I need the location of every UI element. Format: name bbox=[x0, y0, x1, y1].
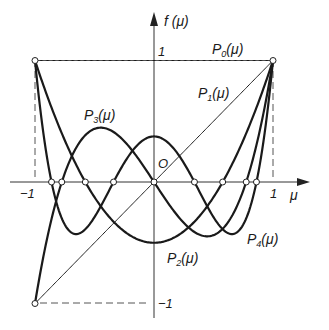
origin-label: O bbox=[158, 156, 168, 171]
plot-canvas: f (μ) μ O −1 1 1 −1 P0(μ) P1(μ) P3(μ) P2… bbox=[0, 0, 329, 330]
x-axis-arrow-icon bbox=[297, 178, 310, 186]
label-p3: P3(μ) bbox=[84, 107, 115, 125]
zero-marker bbox=[253, 179, 259, 185]
zero-marker bbox=[82, 179, 88, 185]
label-p4: P4(μ) bbox=[247, 231, 278, 249]
x-axis-label: μ bbox=[289, 187, 298, 203]
zero-marker bbox=[151, 179, 157, 185]
y-tick-pos-one: 1 bbox=[158, 44, 165, 59]
y-axis-label: f (μ) bbox=[164, 13, 189, 29]
endpoint-marker bbox=[32, 301, 38, 307]
endpoint-marker bbox=[270, 58, 276, 64]
y-tick-neg-one: −1 bbox=[158, 296, 173, 311]
legendre-diagram: f (μ) μ O −1 1 1 −1 P0(μ) P1(μ) P3(μ) P2… bbox=[0, 0, 329, 330]
label-p1: P1(μ) bbox=[198, 85, 229, 103]
x-tick-neg-one: −1 bbox=[20, 186, 35, 201]
zero-marker bbox=[59, 179, 65, 185]
zero-marker bbox=[191, 179, 197, 185]
y-axis-arrow-icon bbox=[150, 12, 158, 26]
zero-marker bbox=[243, 179, 249, 185]
label-p0: P0(μ) bbox=[212, 41, 243, 59]
endpoint-marker bbox=[32, 58, 38, 64]
zero-marker bbox=[49, 179, 55, 185]
x-tick-pos-one: 1 bbox=[270, 186, 277, 201]
zero-marker bbox=[220, 179, 226, 185]
zero-marker bbox=[111, 179, 117, 185]
label-p2: P2(μ) bbox=[167, 250, 198, 268]
